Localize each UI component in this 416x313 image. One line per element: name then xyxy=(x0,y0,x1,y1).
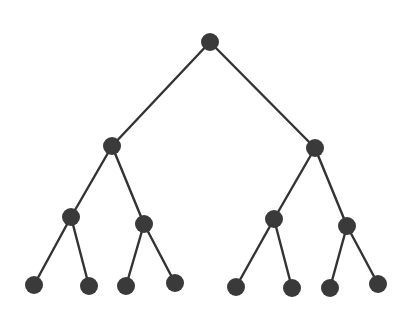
root-node xyxy=(201,33,219,51)
tree-edge xyxy=(71,146,112,217)
tree-edge xyxy=(274,219,292,288)
leaf-node xyxy=(80,277,98,295)
tree-edge xyxy=(112,42,210,146)
tree-node xyxy=(62,208,80,226)
leaf-node xyxy=(25,276,43,294)
leaf-node xyxy=(369,275,387,293)
tree-edge xyxy=(236,219,274,287)
tree-edge xyxy=(330,226,347,288)
tree-edge xyxy=(34,217,71,285)
binary-tree-diagram xyxy=(0,0,416,313)
tree-edge xyxy=(71,217,89,286)
tree-node xyxy=(135,215,153,233)
tree-node xyxy=(338,217,356,235)
tree-edge xyxy=(210,42,315,148)
tree-node xyxy=(265,210,283,228)
leaf-node xyxy=(283,279,301,297)
leaf-node xyxy=(117,277,135,295)
tree-node xyxy=(103,137,121,155)
tree-edge xyxy=(144,224,175,283)
tree-nodes xyxy=(25,33,387,297)
tree-edge xyxy=(274,148,315,219)
tree-edge xyxy=(315,148,347,226)
tree-edge xyxy=(347,226,378,284)
leaf-node xyxy=(321,279,339,297)
tree-edge xyxy=(126,224,144,286)
leaf-node xyxy=(166,274,184,292)
tree-edge xyxy=(112,146,144,224)
tree-edges xyxy=(34,42,378,288)
leaf-node xyxy=(227,278,245,296)
tree-node xyxy=(306,139,324,157)
